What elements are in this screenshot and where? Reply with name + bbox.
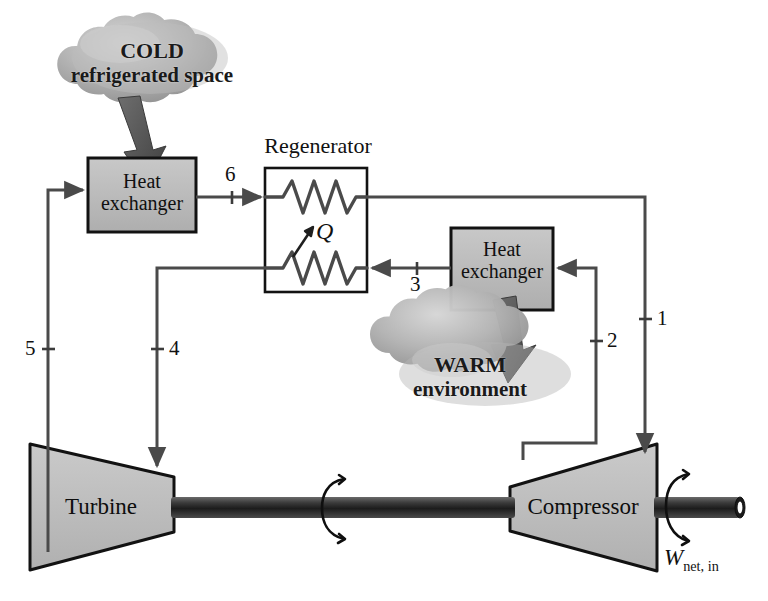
hx-warm-line1: Heat bbox=[449, 238, 555, 260]
warm-reservoir-line2: environment bbox=[382, 377, 558, 401]
warm-reservoir-label: WARM environment bbox=[382, 352, 558, 401]
regenerator-label: Regenerator bbox=[250, 133, 386, 159]
hx-cold-line1: Heat bbox=[88, 170, 196, 192]
warm-reservoir-line1: WARM bbox=[382, 352, 558, 377]
compressor-label: Compressor bbox=[512, 494, 654, 520]
state-point-4: 4 bbox=[169, 336, 180, 361]
work-symbol: W bbox=[664, 545, 683, 570]
state-point-2: 2 bbox=[607, 328, 618, 353]
heat-transfer-label: Q bbox=[316, 218, 333, 245]
state-point-6: 6 bbox=[225, 162, 236, 187]
heat-exchanger-cold-label: Heat exchanger bbox=[88, 170, 196, 215]
heat-exchanger-warm-label: Heat exchanger bbox=[449, 238, 555, 283]
cold-reservoir-line1: COLD bbox=[52, 38, 252, 63]
cold-reservoir-line2: refrigerated space bbox=[52, 63, 252, 87]
drive-shaft bbox=[171, 497, 745, 518]
turbine-label: Turbine bbox=[36, 494, 166, 520]
state-point-5: 5 bbox=[25, 336, 36, 361]
work-subscript: net, in bbox=[683, 558, 719, 574]
state-point-3: 3 bbox=[410, 272, 421, 297]
work-input-label: Wnet, in bbox=[664, 545, 719, 575]
hx-warm-line2: exchanger bbox=[449, 260, 555, 282]
state-point-1: 1 bbox=[657, 306, 668, 331]
hx-cold-line2: exchanger bbox=[88, 192, 196, 214]
cold-reservoir-label: COLD refrigerated space bbox=[52, 38, 252, 87]
